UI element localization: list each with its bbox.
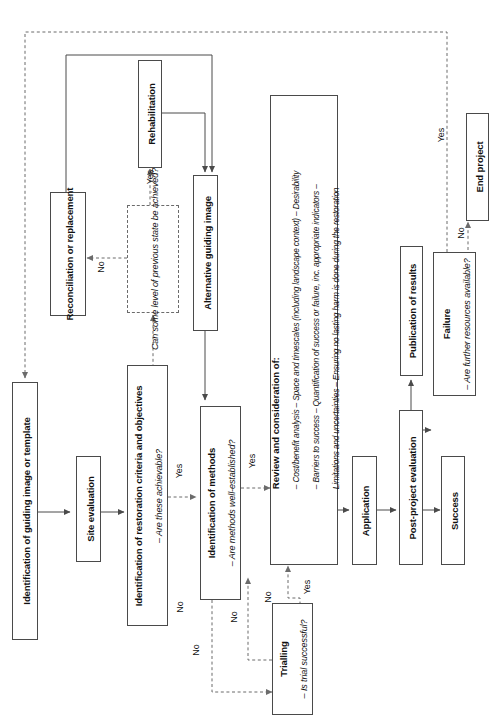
node-identification-methods-label: Identification of methods – Are methods …	[201, 440, 241, 567]
node-previous-state-decision[interactable]: Can some level of previous state be achi…	[127, 205, 179, 313]
edge-label-methods-yes: Yes	[245, 456, 265, 480]
edge-label-failure-yes: Yes	[434, 130, 454, 154]
node-post-project-evaluation[interactable]: Post-project evaluation	[399, 410, 423, 565]
node-review[interactable]: Review and consideration of: – Cost/bene…	[270, 95, 338, 565]
edge-label-previous-state-yes: Yes	[143, 172, 163, 196]
node-trialling[interactable]: Trialling – Is trial successful?	[272, 603, 313, 715]
node-failure-label: Failure – Are further resources availabl…	[435, 258, 475, 389]
node-success[interactable]: Success	[441, 456, 465, 565]
node-publication-of-results-label: Publication of results	[402, 264, 422, 358]
node-alternative-guiding-image[interactable]: Alternative guiding image	[193, 175, 218, 331]
node-alternative-guiding-image-label: Alternative guiding image	[196, 196, 216, 310]
node-reconciliation-or-replacement-label: Reconciliation or replacement	[58, 188, 78, 321]
node-application-label: Application	[355, 485, 375, 536]
node-site-evaluation[interactable]: Site evaluation	[76, 456, 101, 562]
node-success-label: Success	[443, 492, 463, 530]
node-review-label: Review and consideration of: – Cost/bene…	[264, 171, 344, 489]
node-application[interactable]: Application	[352, 456, 377, 565]
edge-label-criteria-no: No	[174, 602, 194, 626]
node-identification-methods[interactable]: Identification of methods – Are methods …	[200, 406, 241, 600]
node-failure[interactable]: Failure – Are further resources availabl…	[433, 252, 476, 396]
node-publication-of-results[interactable]: Publication of results	[400, 246, 423, 376]
node-end-project-label: End project	[468, 141, 488, 192]
node-rehabilitation[interactable]: Rehabilitation	[138, 60, 162, 168]
node-end-project[interactable]: End project	[466, 113, 489, 221]
node-rehabilitation-label: Rehabilitation	[140, 83, 160, 144]
node-trialling-label: Trialling – Is trial successful?	[273, 620, 313, 699]
node-restoration-criteria-label: Identification of restoration criteria a…	[128, 385, 168, 606]
node-restoration-criteria[interactable]: Identification of restoration criteria a…	[127, 365, 168, 626]
edge-label-trial-yes: Yes	[300, 582, 320, 606]
edge-label-methods-no: No	[190, 645, 210, 669]
edge-label-criteria-yes: Yes	[172, 466, 192, 490]
edge-label-failure-no: No	[455, 228, 475, 252]
node-guiding-image-label: Identification of guiding image or templ…	[15, 417, 35, 604]
edge-label-review-no: No	[262, 592, 282, 616]
connector-layer	[0, 0, 498, 725]
edge-label-trial-no: No	[228, 612, 248, 636]
flowchart-canvas: Identification of guiding image or templ…	[0, 0, 498, 725]
node-site-evaluation-label: Site evaluation	[79, 476, 99, 542]
node-guiding-image[interactable]: Identification of guiding image or templ…	[12, 382, 38, 640]
edge-label-previous-state-no: No	[95, 262, 115, 286]
node-post-project-evaluation-label: Post-project evaluation	[401, 436, 421, 539]
node-reconciliation-or-replacement[interactable]: Reconciliation or replacement	[50, 192, 86, 316]
